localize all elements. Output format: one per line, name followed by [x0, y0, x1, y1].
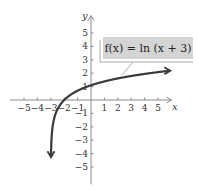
y-tick-label: 4 — [82, 41, 88, 51]
axes: xy — [10, 10, 178, 185]
y-tick-label: −2 — [75, 122, 88, 132]
x-tick-label: −5 — [17, 103, 31, 113]
x-tick-label: 3 — [128, 103, 134, 113]
x-tick-label: −4 — [31, 103, 45, 113]
ln-curve — [51, 71, 169, 156]
y-tick-label: 3 — [82, 55, 88, 65]
function-graph: xy −5−4−3−2−112345−5−4−3−2−112345 f(x) =… — [0, 0, 199, 192]
y-tick-label: −3 — [75, 135, 89, 145]
y-tick-label: −1 — [75, 108, 88, 118]
function-label: f(x) = ln (x + 3) — [104, 42, 191, 55]
y-axis-label: y — [81, 10, 88, 21]
x-axis-label: x — [172, 101, 178, 112]
x-tick-label: 5 — [155, 103, 161, 113]
x-tick-label: 4 — [142, 103, 148, 113]
y-tick-label: 2 — [82, 68, 88, 78]
function-label-box: f(x) = ln (x + 3) — [100, 37, 193, 75]
x-tick-label: 2 — [115, 103, 121, 113]
y-tick-label: −4 — [75, 149, 89, 159]
y-tick-label: 5 — [82, 28, 88, 38]
y-tick-label: −5 — [75, 162, 89, 172]
leader-line — [122, 62, 133, 75]
x-tick-label: 1 — [102, 103, 108, 113]
